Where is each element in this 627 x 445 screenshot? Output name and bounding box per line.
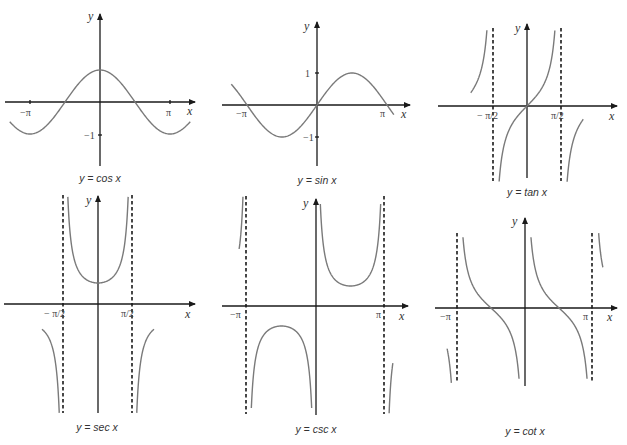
tick-neg-pi: −π — [236, 108, 247, 119]
tick-pi: π — [166, 107, 171, 118]
y-label: y — [87, 9, 94, 23]
caption-csc: y = csc x — [294, 423, 337, 435]
tick-neg-one: −1 — [84, 130, 95, 141]
x-label: x — [184, 307, 191, 321]
tick-one: 1 — [305, 68, 310, 79]
tick-neg-pi: −π — [230, 309, 241, 320]
tick-pi: π — [583, 311, 588, 322]
x-label: x — [400, 107, 407, 121]
x-label: x — [186, 104, 193, 118]
x-label: x — [606, 310, 613, 324]
plot-cos: y x −π π −1 y = cos x — [5, 9, 195, 184]
tick-half-pi: π/2 — [551, 110, 564, 121]
tick-neg-half-pi: − π/2 — [477, 110, 498, 121]
plot-sec: y x − π/2 π/2 y = sec x — [4, 193, 195, 433]
caption-sin: y = sin x — [297, 174, 338, 186]
tick-pi: π — [380, 108, 385, 119]
y-label: y — [511, 214, 518, 228]
plot-sin: y x −π π 1 −1 y = sin x — [222, 19, 410, 186]
y-label: y — [303, 19, 310, 33]
plot-csc: y x −π π y = csc x — [222, 196, 408, 435]
y-label: y — [514, 21, 521, 35]
x-label: x — [608, 109, 615, 123]
caption-cot: y = cot x — [504, 425, 545, 437]
y-label: y — [85, 193, 92, 207]
tick-neg-pi: −π — [440, 311, 451, 322]
caption-tan: y = tan x — [506, 186, 548, 198]
tick-neg-one: −1 — [303, 132, 314, 143]
caption-cos: y = cos x — [78, 172, 121, 184]
tick-neg-pi: −π — [20, 107, 31, 118]
y-label: y — [302, 196, 309, 210]
plot-tan: y x − π/2 π/2 y = tan x — [438, 21, 617, 198]
x-label: x — [398, 309, 405, 323]
tick-neg-half-pi: − π/2 — [44, 308, 65, 319]
tick-half-pi: π/2 — [121, 308, 134, 319]
caption-sec: y = sec x — [75, 421, 118, 433]
trig-function-graphs: y x −π π −1 y = cos x y x −π π 1 −1 y = … — [0, 0, 627, 445]
tick-pi: π — [376, 309, 381, 320]
plot-cot: y x −π π y = cot x — [435, 214, 617, 437]
